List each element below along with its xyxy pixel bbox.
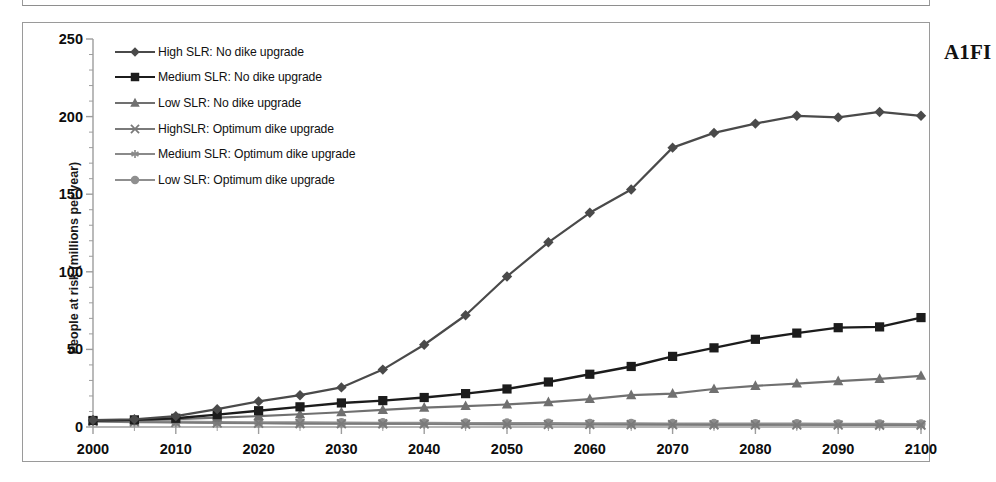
y-tick-label: 100 — [37, 264, 83, 280]
upper-panel-border — [22, 0, 930, 6]
chart-legend: High SLR: No dike upgradeMedium SLR: No … — [115, 39, 355, 193]
marker-square — [544, 377, 553, 386]
legend-marker-asterisk-icon — [115, 146, 155, 162]
legend-label: Medium SLR: Optimum dike upgrade — [158, 147, 355, 161]
y-tick-label: 0 — [37, 419, 83, 435]
legend-label: Low SLR: Optimum dike upgrade — [158, 173, 335, 187]
marker-square — [916, 313, 925, 322]
marker-diamond — [253, 396, 263, 406]
marker-square — [875, 322, 884, 331]
marker-diamond — [709, 128, 719, 138]
x-tick-label: 2050 — [477, 441, 537, 457]
marker-diamond — [295, 390, 305, 400]
legend-marker-square-icon — [115, 69, 155, 85]
x-tick-label: 2080 — [725, 441, 785, 457]
marker-square — [295, 402, 304, 411]
marker-square — [792, 329, 801, 338]
marker-diamond — [336, 382, 346, 392]
marker-square — [627, 362, 636, 371]
y-tick-label: 250 — [37, 31, 83, 47]
marker-square — [420, 393, 429, 402]
marker-diamond — [792, 111, 802, 121]
legend-item: Medium SLR: Optimum dike upgrade — [115, 141, 355, 167]
y-tick-label: 50 — [37, 341, 83, 357]
figure-root: A1FI People at risk (millions per year) … — [0, 0, 996, 482]
marker-square — [461, 389, 470, 398]
marker-diamond — [916, 111, 926, 121]
marker-square — [337, 398, 346, 407]
marker-circle — [131, 176, 139, 184]
chart-panel: People at risk (millions per year) 05010… — [22, 22, 930, 462]
marker-x — [131, 125, 139, 133]
x-tick-label: 2040 — [394, 441, 454, 457]
marker-square — [668, 352, 677, 361]
x-tick-label: 2070 — [643, 441, 703, 457]
x-tick-label: 2010 — [146, 441, 206, 457]
marker-diamond — [378, 364, 388, 374]
marker-square — [751, 335, 760, 344]
marker-diamond — [130, 47, 140, 57]
marker-square — [709, 343, 718, 352]
marker-diamond — [750, 118, 760, 128]
y-tick-label: 150 — [37, 186, 83, 202]
legend-item: HighSLR: Optimum dike upgrade — [115, 116, 355, 142]
marker-asterisk — [131, 150, 138, 158]
x-tick-label: 2090 — [808, 441, 868, 457]
y-tick-label: 200 — [37, 109, 83, 125]
x-tick-label: 2030 — [311, 441, 371, 457]
legend-marker-diamond-icon — [115, 44, 155, 60]
marker-square — [131, 73, 139, 81]
marker-square — [378, 396, 387, 405]
x-tick-label: 2000 — [63, 441, 123, 457]
legend-item: Low SLR: No dike upgrade — [115, 90, 355, 116]
legend-item: Low SLR: Optimum dike upgrade — [115, 167, 355, 193]
legend-marker-circle-icon — [115, 172, 155, 188]
marker-square — [254, 406, 263, 415]
legend-label: Medium SLR: No dike upgrade — [158, 70, 322, 84]
x-tick-label: 2100 — [891, 441, 951, 457]
marker-diamond — [874, 107, 884, 117]
legend-marker-triangle-icon — [115, 95, 155, 111]
legend-label: Low SLR: No dike upgrade — [158, 96, 301, 110]
marker-diamond — [833, 112, 843, 122]
legend-label: HighSLR: Optimum dike upgrade — [158, 122, 334, 136]
legend-item: High SLR: No dike upgrade — [115, 39, 355, 65]
marker-square — [834, 323, 843, 332]
x-tick-label: 2020 — [229, 441, 289, 457]
marker-square — [585, 370, 594, 379]
scenario-label: A1FI — [944, 40, 991, 65]
legend-marker-x-icon — [115, 121, 155, 137]
marker-square — [502, 384, 511, 393]
legend-label: High SLR: No dike upgrade — [158, 45, 304, 59]
x-tick-label: 2060 — [560, 441, 620, 457]
legend-item: Medium SLR: No dike upgrade — [115, 65, 355, 91]
marker-triangle — [130, 98, 139, 107]
